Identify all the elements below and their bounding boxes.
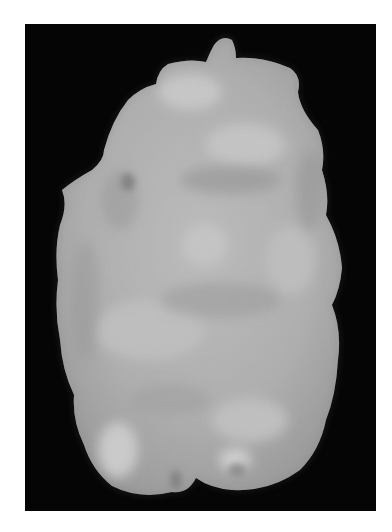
specimen-photo [0, 0, 392, 532]
